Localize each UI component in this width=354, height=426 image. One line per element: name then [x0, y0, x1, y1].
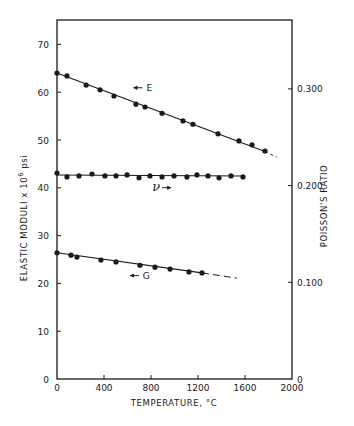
right-y-tick-label: 0.100 — [297, 278, 323, 288]
data-point — [98, 257, 103, 262]
data-point — [111, 93, 116, 98]
data-point — [113, 259, 118, 264]
arrowhead — [133, 86, 137, 90]
x-axis-ticks: 0400800120016002000 — [54, 375, 304, 393]
data-point — [159, 174, 164, 179]
left-y-tick-label: 70 — [38, 40, 50, 50]
data-point — [215, 131, 220, 136]
x-tick-label: 1600 — [234, 383, 257, 393]
left-y-tick-label: 50 — [38, 136, 50, 146]
left-y-tick-label: 10 — [38, 327, 50, 337]
elastic-moduli-chart: 0400800120016002000 010203040506070 00.1… — [0, 0, 354, 426]
data-point — [102, 173, 107, 178]
x-tick-label: 1200 — [187, 383, 210, 393]
data-point — [89, 171, 94, 176]
data-point — [133, 102, 138, 107]
right-y-axis-title: POISSON'S RATIO — [319, 165, 329, 248]
plot-border — [57, 20, 292, 379]
left-y-tick-label: 0 — [43, 375, 49, 385]
data-point — [159, 111, 164, 116]
x-axis-title: TEMPERATURE, °C — [130, 398, 217, 408]
data-point — [262, 148, 267, 153]
data-point — [180, 118, 185, 123]
data-point — [236, 138, 241, 143]
data-point — [142, 104, 147, 109]
right-y-axis-ticks: 00.1000.2000.300 — [288, 84, 323, 384]
series-e — [54, 70, 276, 157]
x-tick-label: 400 — [95, 383, 112, 393]
left-y-tick-label: 20 — [38, 279, 50, 289]
annotation-label: ν — [152, 179, 171, 194]
annotation-text: G — [143, 271, 150, 281]
annotation-text: ν — [152, 179, 160, 194]
data-point — [136, 175, 141, 180]
data-point — [228, 173, 233, 178]
data-point — [68, 253, 73, 258]
data-point — [74, 255, 79, 260]
right-y-tick-label: 0.300 — [297, 84, 323, 94]
left-y-tick-label: 40 — [38, 183, 50, 193]
arrowhead — [130, 273, 134, 277]
series-annotations: EνG — [130, 83, 171, 281]
data-point — [194, 172, 199, 177]
right-y-tick-label: 0 — [297, 375, 303, 385]
series-nu — [54, 170, 245, 180]
plot-frame — [57, 20, 292, 379]
annotation-label: E — [133, 83, 152, 93]
data-point — [147, 173, 152, 178]
data-point — [137, 263, 142, 268]
data-point — [64, 174, 69, 179]
data-point — [97, 87, 102, 92]
data-point — [54, 70, 59, 75]
left-y-tick-label: 30 — [38, 231, 50, 241]
data-point — [186, 269, 191, 274]
left-y-axis-title: ELASTIC MODULI x 106 psi — [17, 155, 29, 282]
data-point — [216, 175, 221, 180]
data-point — [124, 172, 129, 177]
data-point — [249, 142, 254, 147]
left-y-tick-label: 60 — [38, 88, 50, 98]
data-series — [54, 70, 276, 278]
data-point — [240, 174, 245, 179]
data-point — [84, 82, 89, 87]
arrowhead — [167, 185, 171, 189]
data-point — [113, 173, 118, 178]
data-point — [184, 174, 189, 179]
data-point — [76, 173, 81, 178]
data-point — [190, 122, 195, 127]
data-point — [167, 266, 172, 271]
data-point — [199, 270, 204, 275]
data-point — [54, 250, 59, 255]
extrapolation-dashed-line — [202, 273, 237, 278]
data-point — [171, 173, 176, 178]
annotation-label: G — [130, 271, 150, 281]
data-point — [152, 265, 157, 270]
data-point — [64, 73, 69, 78]
x-tick-label: 800 — [142, 383, 159, 393]
data-point — [54, 170, 59, 175]
x-tick-label: 0 — [54, 383, 60, 393]
x-tick-label: 2000 — [281, 383, 304, 393]
annotation-text: E — [146, 83, 152, 93]
data-point — [205, 173, 210, 178]
